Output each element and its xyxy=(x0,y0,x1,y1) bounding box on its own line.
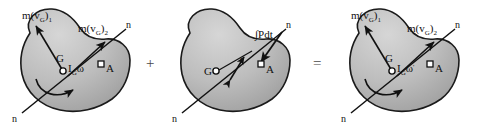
mass-center-point xyxy=(60,68,66,74)
label-axis-bottom: n xyxy=(172,113,177,124)
label-moment-arm: r xyxy=(240,53,244,65)
label-mass-center: G xyxy=(204,65,212,77)
rigid-body-shape xyxy=(21,9,130,111)
mass-center-point xyxy=(389,68,395,74)
angular-impulse-momentum-figure: m(vG)1 m(vG)2 G IGω A n n + xyxy=(0,0,482,130)
point-a-marker xyxy=(258,61,264,67)
label-axis-top: n xyxy=(286,19,291,30)
panel-final-momenta: m(vG)1 m(vG)2 G IGω' A n n xyxy=(326,0,482,130)
equals-operator: = xyxy=(313,56,321,71)
label-mass-center: G xyxy=(385,52,393,64)
label-point-a: A xyxy=(266,63,274,75)
mass-center-point xyxy=(213,68,219,74)
panel-initial-momenta: m(vG)1 m(vG)2 G IGω A n n xyxy=(0,0,150,130)
panel-angular-impulse: ∫Pdt G r A n n xyxy=(160,0,310,130)
label-axis-bottom: n xyxy=(341,113,346,124)
point-a-marker xyxy=(98,61,104,67)
plus-operator: + xyxy=(146,56,154,71)
rigid-body-shape xyxy=(350,9,459,111)
label-impulse: ∫Pdt xyxy=(254,28,273,41)
label-axis-top: n xyxy=(455,19,460,30)
label-axis-bottom: n xyxy=(12,113,17,124)
label-point-a: A xyxy=(106,62,114,74)
point-a-marker xyxy=(427,61,433,67)
label-point-a: A xyxy=(435,62,443,74)
label-axis-top: n xyxy=(126,19,131,30)
label-mass-center: G xyxy=(56,52,64,64)
